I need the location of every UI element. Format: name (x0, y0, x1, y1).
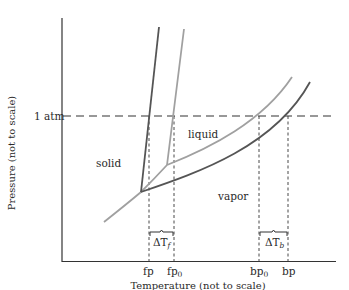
pure-melting-line (167, 29, 184, 165)
region-vapor-label: vapor (217, 190, 249, 202)
bp0-tick-label: bp0 (250, 265, 268, 279)
x-axis-title: Temperature (not to scale) (130, 280, 265, 290)
delta-tb-label: ΔTb (265, 236, 285, 250)
fp0-tick-label: fp0 (167, 265, 183, 279)
solution-melting-line (141, 27, 159, 192)
pure-sublimation-curve (104, 165, 167, 222)
delta-tf-label: ΔTf (153, 236, 172, 250)
pure-vaporization-curve (167, 77, 292, 165)
one-atm-label: 1 atm (34, 110, 64, 122)
phase-diagram: 1 atm solid liquid vapor ΔTf ΔTb fp fp0 … (0, 0, 349, 290)
y-axis-title: Pressure (not to scale) (6, 96, 17, 211)
fp-tick-label: fp (143, 265, 154, 277)
region-solid-label: solid (96, 157, 121, 169)
bp-tick-label: bp (282, 265, 296, 277)
region-liquid-label: liquid (188, 128, 219, 140)
